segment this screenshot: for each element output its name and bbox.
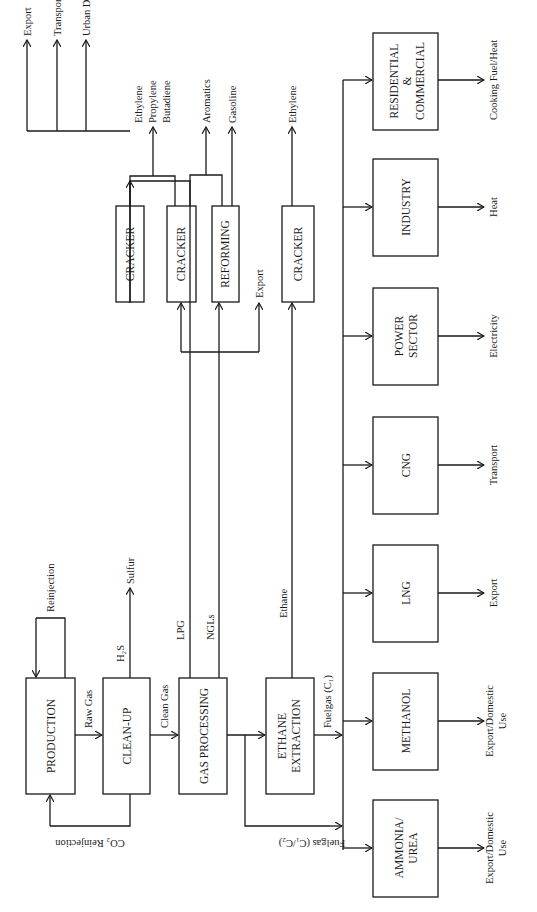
reforming-box: REFORMING (212, 206, 239, 302)
ngls-label: NGLs (205, 614, 216, 640)
out-cng-label: Transport (488, 445, 499, 486)
reinjection-label: Reinjection (45, 563, 56, 612)
power-sector-box: POWER SECTOR (373, 288, 438, 385)
clean-gas-label: Clean Gas (159, 685, 170, 728)
co2-reinjection-label: CO₂ Reinjection (55, 838, 125, 849)
raw-gas-label: Raw Gas (83, 690, 94, 728)
ethane-extraction-box: ETHANE EXTRACTION (266, 678, 314, 794)
ethylene-2-label: Ethylene (287, 85, 298, 123)
ammonia-urea-box: AMMONIA/ UREA (373, 800, 438, 897)
lng-box: LNG (373, 545, 438, 642)
production-label: PRODUCTION (45, 698, 57, 773)
out-methanol-label-1: Export/Domestic (484, 685, 495, 757)
cracker-2-label: CRACKER (175, 227, 187, 282)
cracker-2-box: CRACKER (167, 206, 196, 302)
out-ammonia-label-1: Export/Domestic (484, 812, 495, 884)
reforming-label: REFORMING (219, 220, 231, 288)
residential-label-1: RESIDENTIAL (388, 44, 400, 119)
cleanup-box: CLEAN-UP (103, 678, 150, 794)
fuelgas-c1-label: Fuelgas (C₁) (322, 675, 334, 728)
cracker-3-label: CRACKER (292, 227, 304, 282)
out-methanol-label-2: Use (497, 713, 508, 730)
industry-label: INDUSTRY (400, 178, 412, 236)
lng-label: LNG (400, 581, 412, 605)
lpg-label: LPG (175, 620, 186, 640)
sulfur-label: Sulfur (125, 557, 136, 584)
industry-box: INDUSTRY (373, 159, 438, 256)
transport-1-label: Transport (52, 0, 63, 36)
gasoline-label: Gasoline (227, 85, 238, 123)
ethane-extraction-label-2: EXTRACTION (290, 699, 302, 773)
butadiene-label: Butadiene (161, 80, 172, 123)
gas-processing-label: GAS PROCESSING (198, 688, 210, 784)
methanol-box: METHANOL (373, 673, 438, 770)
power-label-1: POWER (393, 316, 405, 357)
out-residential-label: Cooking Fuel/Heat (488, 40, 499, 120)
out-ammonia-label-2: Use (497, 840, 508, 857)
urban-domestic-fund-label: Urban Domestic Fund (81, 0, 92, 36)
cng-box: CNG (373, 417, 438, 514)
aromatics-label: Aromatics (201, 79, 212, 123)
production-box: PRODUCTION (26, 678, 75, 794)
ammonia-urea-label-1: AMMONIA/ (393, 817, 405, 879)
h2s-label: H₂S (115, 645, 126, 662)
propylene-label: Propylene (147, 80, 158, 123)
residential-commercial-box: RESIDENTIAL & COMMERCIAL (373, 33, 438, 130)
gas-value-chain-diagram: PRODUCTION CLEAN-UP GAS PROCESSING ETHAN… (0, 0, 537, 912)
fuelgas-c1c2-label: Fuelgas (C₁/C₂) (278, 837, 345, 849)
export-1-label: Export (22, 7, 33, 36)
cracker-3-box: CRACKER (282, 206, 314, 302)
cleanup-label: CLEAN-UP (121, 708, 133, 765)
ethylene-1-label: Ethylene (133, 85, 144, 123)
ethane-label: Ethane (278, 589, 289, 618)
cng-label: CNG (400, 453, 412, 477)
residential-label-3: COMMERCIAL (414, 42, 426, 120)
out-lng-label: Export (488, 579, 499, 608)
out-power-label: Electricity (488, 313, 499, 357)
power-label-2: SECTOR (407, 314, 419, 358)
ethane-extraction-label-1: ETHANE (276, 713, 288, 759)
ammonia-urea-label-2: UREA (407, 832, 419, 864)
gas-processing-box: GAS PROCESSING (179, 678, 227, 794)
methanol-label: METHANOL (400, 689, 412, 754)
export-2-label: Export (254, 269, 265, 298)
residential-label-2: & (401, 76, 413, 85)
out-industry-label: Heat (488, 197, 499, 217)
